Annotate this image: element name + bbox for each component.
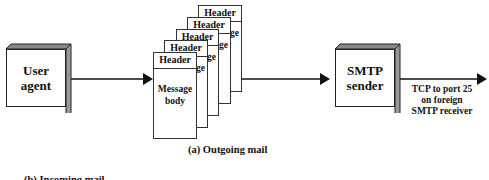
message-body-fragment: ge xyxy=(219,40,228,50)
figure-caption: (a) Outgoing mail xyxy=(188,144,267,155)
message-body-fragment: ge xyxy=(207,52,216,62)
message-body-label-1: Message xyxy=(154,83,196,95)
message-header: Header xyxy=(154,53,196,69)
user-agent-node: User agent xyxy=(5,43,67,108)
smtp-sender-label-1: SMTP xyxy=(347,63,383,78)
partial-caption: (b) Incoming mail xyxy=(24,174,105,180)
tcp-label-1: TCP to port 25 xyxy=(398,84,486,95)
message-body-label-2: body xyxy=(154,95,196,107)
user-agent-face: User agent xyxy=(6,49,66,107)
message-body: Message body xyxy=(154,69,196,107)
message-body-fragment: ge xyxy=(196,63,205,73)
message-body-fragment: ge xyxy=(230,28,239,38)
smtp-sender-label-2: sender xyxy=(347,78,384,93)
smtp-sender-node: SMTP sender xyxy=(334,43,396,108)
smtp-sender-face: SMTP sender xyxy=(335,49,395,107)
user-agent-label-1: User xyxy=(23,63,49,78)
tcp-label-2: on foreign xyxy=(398,95,486,106)
user-agent-label-2: agent xyxy=(21,78,51,93)
tcp-label-3: SMTP receiver xyxy=(398,106,486,117)
tcp-connection-label: TCP to port 25 on foreign SMTP receiver xyxy=(398,84,486,117)
queued-message-1: Header Message body xyxy=(153,52,197,139)
